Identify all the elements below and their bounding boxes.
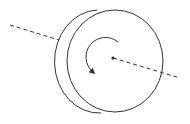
center-point	[111, 56, 114, 59]
cylinder-front-face	[67, 10, 163, 112]
rotation-arrow-icon	[86, 37, 118, 72]
axis-left-dashed-line	[10, 25, 59, 40]
rotating-cylinder-diagram	[0, 0, 190, 124]
axis-right-dashed-line	[113, 58, 180, 78]
cylinder-back-edge	[55, 10, 101, 113]
